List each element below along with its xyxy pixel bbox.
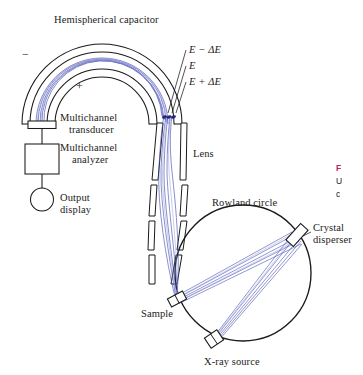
figure-caption-line2: U — [336, 176, 342, 187]
label-crystal-disperser-line2: disperser — [313, 234, 352, 246]
label-polarity-negative: − — [22, 49, 29, 61]
label-multichannel-transducer-line2: transducer — [69, 124, 114, 136]
figure-root: Hemispherical capacitor − + E − ΔE E E +… — [0, 0, 363, 375]
caption-line3-text: c — [336, 189, 340, 199]
lens-plate-upper-left — [152, 123, 163, 180]
label-multichannel-analyzer-line2: analyzer — [72, 154, 108, 166]
label-energy-plus: E + ΔE — [189, 76, 221, 88]
spectrometer-diagram — [0, 0, 363, 375]
label-output-display-line1: Output — [60, 192, 90, 204]
lens-plate-fourth-left — [149, 255, 155, 284]
output-display — [31, 188, 54, 211]
label-multichannel-analyzer-line1: Multichannel — [60, 142, 117, 154]
leader-energy-minus — [168, 50, 186, 113]
label-crystal-disperser-line1: Crystal — [313, 222, 344, 234]
label-hemispherical-capacitor: Hemispherical capacitor — [54, 14, 159, 26]
lens-plate-upper-right — [180, 123, 187, 180]
label-rowland-circle: Rowland circle — [212, 197, 277, 209]
label-lens: Lens — [193, 148, 214, 160]
lens-plate-third-left — [148, 221, 155, 250]
rowland-circle — [175, 205, 311, 341]
multichannel-transducer — [28, 121, 56, 129]
label-multichannel-transducer-line1: Multichannel — [60, 112, 117, 124]
caption-line2-text: U — [336, 176, 342, 186]
lens-plate-second-left — [149, 185, 157, 216]
multichannel-analyzer — [25, 144, 59, 174]
xray-beam-crystal-to-sample — [175, 232, 301, 304]
energy-leader-lines — [168, 50, 186, 113]
sample — [167, 291, 186, 307]
xray-beam-highlight — [176, 234, 298, 339]
label-energy-minus: E − ΔE — [189, 44, 221, 56]
label-polarity-positive: + — [76, 81, 83, 93]
figure-caption-line1: F — [336, 163, 341, 174]
figure-caption-line3: c — [336, 189, 340, 200]
label-xray-source: X-ray source — [204, 356, 260, 368]
label-sample: Sample — [141, 308, 173, 320]
label-output-display-line2: display — [60, 204, 91, 216]
xray-source — [204, 330, 223, 348]
label-energy-center: E — [189, 60, 196, 72]
caption-figure-number: F — [336, 163, 341, 173]
detector-chain — [25, 121, 59, 211]
lens-plate-second-right — [180, 185, 188, 216]
